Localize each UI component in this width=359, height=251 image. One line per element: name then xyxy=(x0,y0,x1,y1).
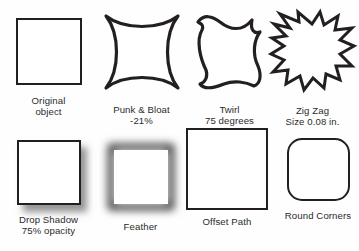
caption-line-1: Round Corners xyxy=(285,210,351,221)
figure-item-zig-zag: Zig Zag Size 0.08 in. xyxy=(266,8,359,128)
zigzag-starburst-icon xyxy=(268,8,358,96)
punk-bloat-icon xyxy=(100,10,184,94)
caption-punk-bloat: Punk & Bloat -21% xyxy=(113,104,170,127)
caption-round-corners: Round Corners xyxy=(285,210,351,221)
caption-line-1: Offset Path xyxy=(203,216,252,227)
caption-offset-path: Offset Path xyxy=(203,216,252,227)
figure-item-original-object: Original object xyxy=(0,18,97,118)
figure-item-feather: Feather xyxy=(92,140,189,232)
figure-item-punk-bloat: Punk & Bloat -21% xyxy=(93,10,190,127)
drop-shadow-shape xyxy=(17,140,81,205)
original-square-shape xyxy=(16,18,82,85)
offset-path-shape xyxy=(186,128,268,210)
caption-line-1: Zig Zag xyxy=(285,105,339,116)
caption-line-2: 75 degrees xyxy=(205,115,254,126)
figure-item-drop-shadow: Drop Shadow 75% opacity xyxy=(0,140,97,237)
caption-drop-shadow: Drop Shadow 75% opacity xyxy=(19,214,78,237)
punk-bloat-shape xyxy=(100,10,184,98)
caption-original-object: Original object xyxy=(32,95,66,118)
figure-item-round-corners: Round Corners xyxy=(272,138,359,221)
effects-comparison-figure: Original object Punk & Bloat -21% Twirl … xyxy=(0,0,359,251)
figure-item-twirl: Twirl 75 degrees xyxy=(183,10,276,127)
caption-twirl: Twirl 75 degrees xyxy=(205,104,254,127)
caption-line-1: Original xyxy=(32,95,66,106)
figure-item-offset-path: Offset Path xyxy=(178,128,276,227)
round-corners-shape xyxy=(287,138,350,201)
caption-line-2: 75% opacity xyxy=(19,225,78,236)
caption-line-2: Size 0.08 in. xyxy=(285,116,339,127)
caption-line-1: Punk & Bloat xyxy=(113,104,170,115)
caption-line-2: -21% xyxy=(113,115,170,126)
caption-line-1: Drop Shadow xyxy=(19,214,78,225)
zig-zag-shape xyxy=(268,8,358,100)
caption-feather: Feather xyxy=(124,221,158,232)
caption-line-1: Feather xyxy=(124,221,158,232)
feather-shape xyxy=(104,140,178,214)
caption-line-2: object xyxy=(32,106,66,117)
caption-line-1: Twirl xyxy=(205,104,254,115)
twirl-shape xyxy=(190,10,270,98)
twirl-icon xyxy=(190,10,270,94)
caption-zig-zag: Zig Zag Size 0.08 in. xyxy=(285,105,339,128)
feather-core-fill xyxy=(114,150,168,204)
